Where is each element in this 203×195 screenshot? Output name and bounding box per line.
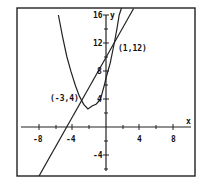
y-tick-label: 8 xyxy=(97,67,102,76)
graph-canvas: x y -8 -4 4 8 16 12 8 4 -4 (-3,4) (1,12) xyxy=(0,0,203,195)
annotation-point-neg3-4: (-3,4) xyxy=(50,94,79,103)
annotation-point-1-12: (1,12) xyxy=(118,44,147,53)
y-tick-label: 12 xyxy=(93,39,103,48)
y-tick-label: 4 xyxy=(97,95,102,104)
x-tick-label: 8 xyxy=(171,135,176,144)
x-axis-label: x xyxy=(186,117,191,126)
x-tick-label: -8 xyxy=(33,135,43,144)
x-tick-label: -4 xyxy=(66,135,76,144)
y-axis-label: y xyxy=(110,11,115,20)
y-tick-label: -4 xyxy=(93,151,103,160)
x-tick-label: 4 xyxy=(137,135,142,144)
y-tick-label: 16 xyxy=(93,11,103,20)
